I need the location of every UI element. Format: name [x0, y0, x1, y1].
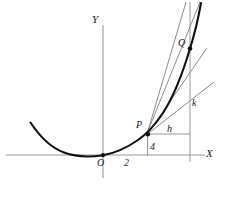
- tick-label-2: 2: [124, 158, 129, 168]
- tick-label-4: 4: [150, 142, 155, 152]
- parabola-curve: [31, 3, 202, 156]
- y-axis-label: Y: [92, 14, 98, 25]
- point-q-label: Q: [178, 38, 185, 48]
- point-p-marker: [146, 132, 151, 137]
- figure-canvas: Y X O P Q h k 2 4: [0, 0, 227, 200]
- segment-h-label: h: [167, 124, 172, 134]
- origin-label: O: [97, 158, 104, 168]
- x-axis-label: X: [206, 148, 213, 159]
- point-q-marker: [188, 46, 193, 51]
- segment-k-label: k: [192, 98, 196, 108]
- tangent-line-at-p: [147, 2, 187, 136]
- point-p-label: P: [136, 120, 142, 130]
